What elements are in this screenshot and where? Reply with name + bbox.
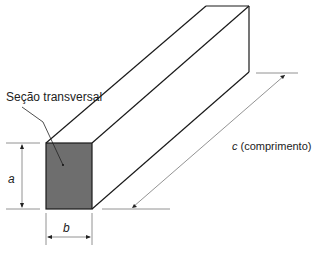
cross-section-label: Seção transversal — [6, 91, 102, 103]
leader-dot — [62, 164, 64, 166]
dimension-a-label: a — [8, 173, 15, 185]
dimension-b-label: b — [63, 222, 70, 234]
c-description: (comprimento) — [238, 140, 312, 152]
beam-diagram — [0, 0, 315, 253]
dimension-c-label: c (comprimento) — [232, 141, 311, 152]
cross-section-face — [46, 143, 92, 209]
